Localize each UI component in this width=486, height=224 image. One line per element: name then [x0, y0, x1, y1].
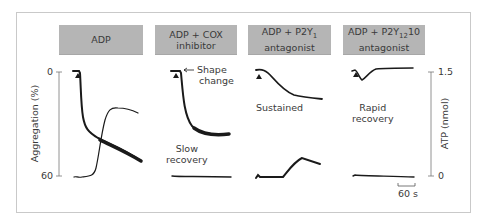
right-axis [428, 72, 434, 176]
left-axis-title: Aggregation (%) [29, 85, 40, 163]
left-axis-tick-top: 0 [47, 66, 53, 77]
scale-bar-label: 60 s [398, 188, 418, 199]
slow-recovery-label: Slow recovery [166, 143, 208, 165]
p2y12-atp-trace [353, 175, 414, 177]
cox-stimulus-marker [173, 73, 179, 78]
p2y1-aggregation-trace [256, 70, 322, 99]
left-axis-tick-bottom: 60 [41, 170, 53, 181]
left-axis [56, 72, 62, 176]
shape-change-arrow [184, 68, 194, 72]
sustained-label: Sustained [256, 102, 303, 113]
p2y1-atp-trace [256, 158, 320, 178]
right-axis-title: ATP (nmol) [439, 98, 450, 149]
time-scale-bar [398, 183, 415, 186]
p2y1-stimulus-marker [256, 74, 262, 79]
right-axis-tick-top: 1.5 [438, 66, 453, 77]
cox-atp-trace [172, 176, 231, 177]
right-axis-tick-bottom: 0 [438, 170, 444, 181]
p2y12-aggregation-trace [352, 68, 413, 80]
shape-change-label: Shape change [197, 64, 234, 86]
rapid-recovery-label: Rapid recovery [352, 102, 394, 124]
